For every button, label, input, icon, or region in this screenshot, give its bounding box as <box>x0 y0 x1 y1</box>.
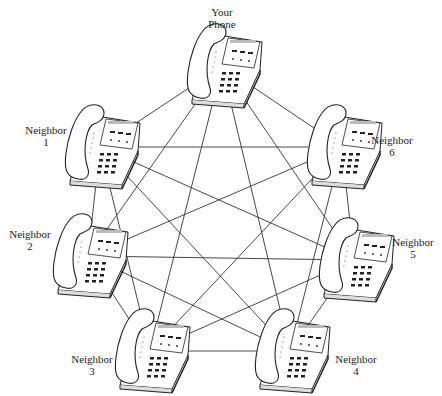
telephone-icon <box>53 214 128 298</box>
label-neighbor-4: Neighbor 4 <box>326 353 386 377</box>
mesh-network-diagram: Your Phone Neighbor 1 Neighbor 6 Neighbo… <box>0 0 442 396</box>
label-neighbor-5: Neighbor 5 <box>383 236 442 260</box>
telephone-icon <box>65 105 140 189</box>
label-your-phone: Your Phone <box>192 6 252 30</box>
label-neighbor-1: Neighbor 1 <box>16 124 76 148</box>
phones-layer <box>0 0 442 396</box>
telephone-icon <box>255 309 330 393</box>
telephone-icon <box>115 309 190 393</box>
label-neighbor-6: Neighbor 6 <box>362 134 422 158</box>
telephone-icon <box>187 24 262 108</box>
label-neighbor-2: Neighbor 2 <box>0 228 60 252</box>
label-neighbor-3: Neighbor 3 <box>62 353 122 377</box>
